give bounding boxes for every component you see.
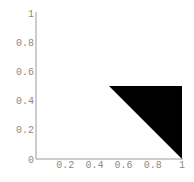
triangle-polygon bbox=[109, 86, 182, 159]
y-tick-labels: 00.20.40.60.81 bbox=[16, 9, 34, 166]
filled-region bbox=[109, 86, 182, 159]
x-tick-label: 0.4 bbox=[85, 160, 103, 171]
x-tick-label: 1 bbox=[179, 160, 185, 171]
y-tick-label: 1 bbox=[28, 9, 34, 20]
x-tick-label: 0.6 bbox=[115, 160, 133, 171]
y-tick-label: 0.2 bbox=[16, 125, 34, 136]
y-tick-label: 0.8 bbox=[16, 38, 34, 49]
x-tick-label: 0.2 bbox=[56, 160, 74, 171]
y-tick-label: 0 bbox=[28, 155, 34, 166]
plot-area: 00.20.40.60.81 0.20.40.60.81 bbox=[0, 0, 194, 182]
x-tick-labels: 0.20.40.60.81 bbox=[56, 160, 185, 171]
x-tick-label: 0.8 bbox=[144, 160, 162, 171]
y-tick-label: 0.4 bbox=[16, 96, 34, 107]
y-tick-label: 0.6 bbox=[16, 67, 34, 78]
